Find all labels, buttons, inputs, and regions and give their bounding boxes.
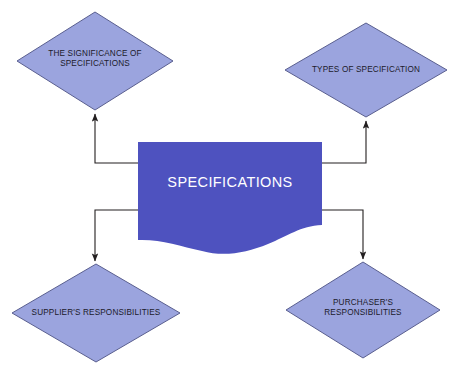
diagram-graphics	[0, 0, 455, 376]
connector-center-to-supplier	[95, 210, 138, 261]
center-shape-wave-document[interactable]	[138, 142, 322, 254]
diamond-shape-types[interactable]	[285, 23, 447, 117]
diamond-shape-supplier[interactable]	[12, 264, 180, 362]
diagram-canvas: THE SIGNIFICANCE OF SPECIFICATIONS TYPES…	[0, 0, 455, 376]
connector-center-to-significance	[95, 114, 138, 163]
diamond-shape-significance[interactable]	[17, 12, 173, 110]
diamond-shape-purchaser[interactable]	[286, 262, 440, 358]
connector-center-to-types	[322, 121, 366, 163]
connector-center-to-purchaser	[322, 210, 363, 259]
